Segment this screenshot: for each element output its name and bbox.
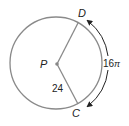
label-arc-number: 16 — [103, 58, 115, 69]
label-p: P — [40, 58, 48, 70]
label-arc-pi: π — [114, 59, 121, 69]
label-d: D — [78, 7, 86, 19]
label-radius: 24 — [52, 83, 64, 94]
diagram-canvas: P D C 24 16 π — [0, 0, 129, 126]
label-c: C — [72, 107, 80, 119]
arc-arrow-up — [88, 21, 108, 56]
arc-arrow-down — [88, 70, 108, 106]
center-point — [55, 62, 59, 66]
radius-pd — [57, 23, 78, 64]
